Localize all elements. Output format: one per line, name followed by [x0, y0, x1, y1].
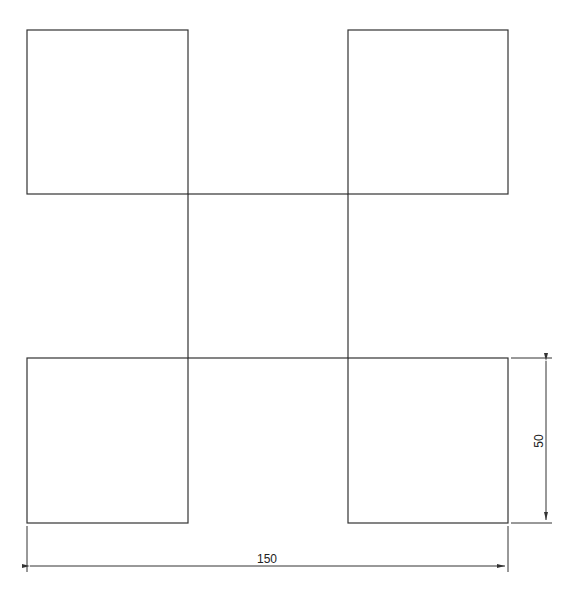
- square-center: [188, 194, 348, 358]
- drawing-canvas: 150 50: [0, 0, 578, 600]
- dimension-horizontal: 150: [27, 526, 508, 572]
- dimension-label-horizontal: 150: [257, 552, 277, 566]
- dimension-vertical: 50: [511, 358, 552, 523]
- square-top-left: [27, 30, 188, 194]
- dimension-label-vertical: 50: [532, 434, 546, 448]
- square-bottom-left: [27, 358, 188, 523]
- square-bottom-right: [348, 358, 508, 523]
- square-top-right: [348, 30, 508, 194]
